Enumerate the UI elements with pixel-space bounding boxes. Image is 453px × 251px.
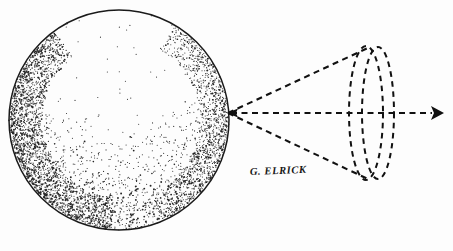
axis-arrowhead-right-icon bbox=[431, 106, 444, 120]
figure-container: G. ELRICK bbox=[0, 0, 453, 251]
artist-signature: G. ELRICK bbox=[250, 164, 307, 177]
sphere-outline bbox=[9, 10, 229, 230]
diagram-canvas bbox=[0, 0, 453, 251]
